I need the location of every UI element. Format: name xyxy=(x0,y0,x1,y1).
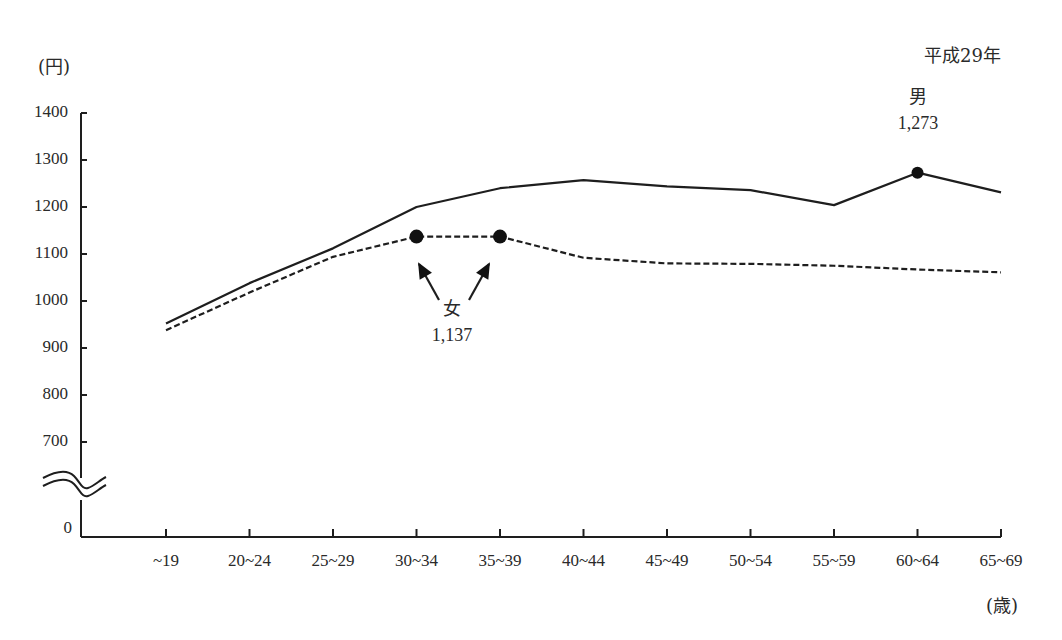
x-tick-label: ~19 xyxy=(121,551,211,571)
wage-by-age-chart: (円) 平成29年 (歳) 70080090010001100120013001… xyxy=(0,0,1062,640)
x-tick-label: 60~64 xyxy=(873,551,963,571)
y-tick-label: 1000 xyxy=(14,290,68,310)
female-peak-marker xyxy=(410,230,424,244)
y-tick-zero: 0 xyxy=(20,518,72,538)
y-tick-label: 800 xyxy=(14,384,68,404)
male-series-line xyxy=(166,173,1001,324)
male-value: 1,273 xyxy=(878,110,958,136)
male-peak-marker xyxy=(912,167,924,179)
male-label: 男 xyxy=(878,84,958,110)
female-value: 1,137 xyxy=(412,322,492,348)
arrow-head-icon xyxy=(476,262,490,279)
female-annotation: 女 1,137 xyxy=(412,296,492,348)
female-series-line xyxy=(166,237,1001,331)
y-axis-unit-label: (円) xyxy=(38,52,70,78)
x-tick-label: 30~34 xyxy=(372,551,462,571)
year-label: 平成29年 xyxy=(924,41,1001,67)
y-tick-label: 900 xyxy=(14,337,68,357)
y-tick-label: 1100 xyxy=(14,243,68,263)
x-axis-unit-label: (歳) xyxy=(986,591,1018,617)
y-tick-label: 700 xyxy=(14,431,68,451)
female-label: 女 xyxy=(412,296,492,322)
x-tick-label: 20~24 xyxy=(205,551,295,571)
x-tick-label: 40~44 xyxy=(539,551,629,571)
y-tick-label: 1300 xyxy=(14,149,68,169)
y-tick-label: 1400 xyxy=(14,102,68,122)
female-peak-marker xyxy=(493,230,507,244)
x-tick-label: 35~39 xyxy=(455,551,545,571)
x-tick-label: 50~54 xyxy=(706,551,796,571)
x-tick-label: 45~49 xyxy=(622,551,712,571)
arrow-head-icon xyxy=(418,262,432,279)
x-tick-label: 55~59 xyxy=(789,551,879,571)
male-annotation: 男 1,273 xyxy=(878,84,958,136)
y-tick-label: 1200 xyxy=(14,196,68,216)
x-tick-label: 65~69 xyxy=(956,551,1046,571)
x-tick-label: 25~29 xyxy=(288,551,378,571)
